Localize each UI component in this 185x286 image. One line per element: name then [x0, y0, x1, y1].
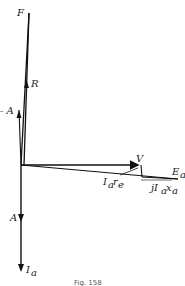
svg-text:a: a	[172, 185, 178, 196]
label-Ia: I a	[25, 264, 37, 278]
arrowhead-Ia	[18, 264, 24, 272]
svg-text:e: e	[118, 179, 124, 190]
phasor-Ea	[21, 165, 178, 179]
label-R: R	[30, 78, 39, 89]
label-F: F	[16, 7, 25, 18]
label-Iare: I a r e	[102, 176, 124, 190]
phasor-diagram: F R - A V E a I a r e jI a x a A I a Fig…	[0, 0, 185, 286]
figure-caption: Fig. 158	[74, 279, 102, 286]
arrowhead-neg-A	[17, 110, 22, 118]
svg-text:E: E	[171, 166, 180, 177]
phasor-A-Ia	[18, 165, 24, 272]
phasor-neg-A	[17, 110, 22, 165]
drop-jIaxa	[141, 177, 178, 180]
label-jIaxa: jI a x a	[149, 182, 178, 196]
label-A: A	[9, 212, 17, 223]
label-V: V	[136, 153, 145, 164]
label-Ea: E a	[171, 166, 185, 180]
svg-text:a: a	[180, 169, 185, 180]
label-neg-A: - A	[0, 105, 14, 116]
arrowhead-A	[18, 214, 24, 222]
svg-text:a: a	[31, 267, 37, 278]
svg-text:jI: jI	[149, 182, 159, 193]
